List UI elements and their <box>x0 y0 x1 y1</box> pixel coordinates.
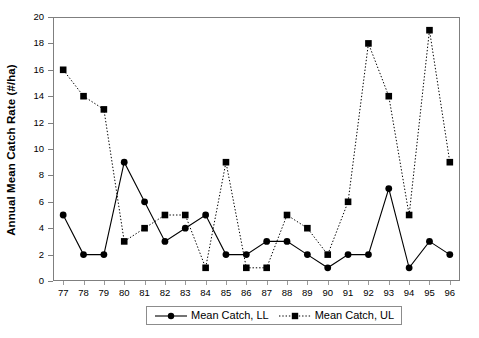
x-axis-tick <box>124 281 125 285</box>
y-axis-tick-label: 8 <box>14 170 44 180</box>
x-axis-tick <box>328 281 329 285</box>
y-axis-tick <box>48 281 53 282</box>
x-axis-tick <box>84 281 85 285</box>
y-axis-tick-label: 2 <box>14 250 44 260</box>
y-axis-tick-label: 10 <box>14 144 44 154</box>
x-axis-tick <box>267 281 268 285</box>
x-axis-tick <box>307 281 308 285</box>
x-axis-tick <box>165 281 166 285</box>
x-axis-tick <box>450 281 451 285</box>
legend-item: Mean Catch, UL <box>278 310 394 322</box>
legend-item-label: Mean Catch, LL <box>191 310 269 321</box>
chart-page: Annual Mean Catch Rate (#/ha) 0246810121… <box>0 0 479 338</box>
y-axis-tick-label: 16 <box>14 65 44 75</box>
x-axis-tick <box>368 281 369 285</box>
x-axis-tick <box>429 281 430 285</box>
x-axis-tick <box>185 281 186 285</box>
y-axis-tick-label: 6 <box>14 197 44 207</box>
x-axis-tick <box>348 281 349 285</box>
x-axis-tick-label: 96 <box>438 288 462 298</box>
x-axis-tick <box>206 281 207 285</box>
x-axis-tick <box>63 281 64 285</box>
x-axis-tick <box>409 281 410 285</box>
legend-square-icon <box>278 310 312 322</box>
legend-item: Mean Catch, LL <box>154 310 269 322</box>
chart-legend: Mean Catch, LLMean Catch, UL <box>146 306 402 325</box>
x-axis-tick <box>287 281 288 285</box>
y-axis-tick-label: 14 <box>14 91 44 101</box>
x-axis-tick <box>226 281 227 285</box>
x-axis-tick <box>145 281 146 285</box>
legend-circle-icon <box>154 310 188 322</box>
y-axis-tick-label: 4 <box>14 223 44 233</box>
x-axis-tick <box>246 281 247 285</box>
y-axis-tick-label: 12 <box>14 118 44 128</box>
x-axis-tick <box>104 281 105 285</box>
y-axis-tick-label: 20 <box>14 12 44 22</box>
y-axis-tick-label: 18 <box>14 38 44 48</box>
plot-area <box>53 17 460 281</box>
legend-item-label: Mean Catch, UL <box>315 310 394 321</box>
x-axis-tick <box>389 281 390 285</box>
y-axis-tick-label: 0 <box>14 276 44 286</box>
